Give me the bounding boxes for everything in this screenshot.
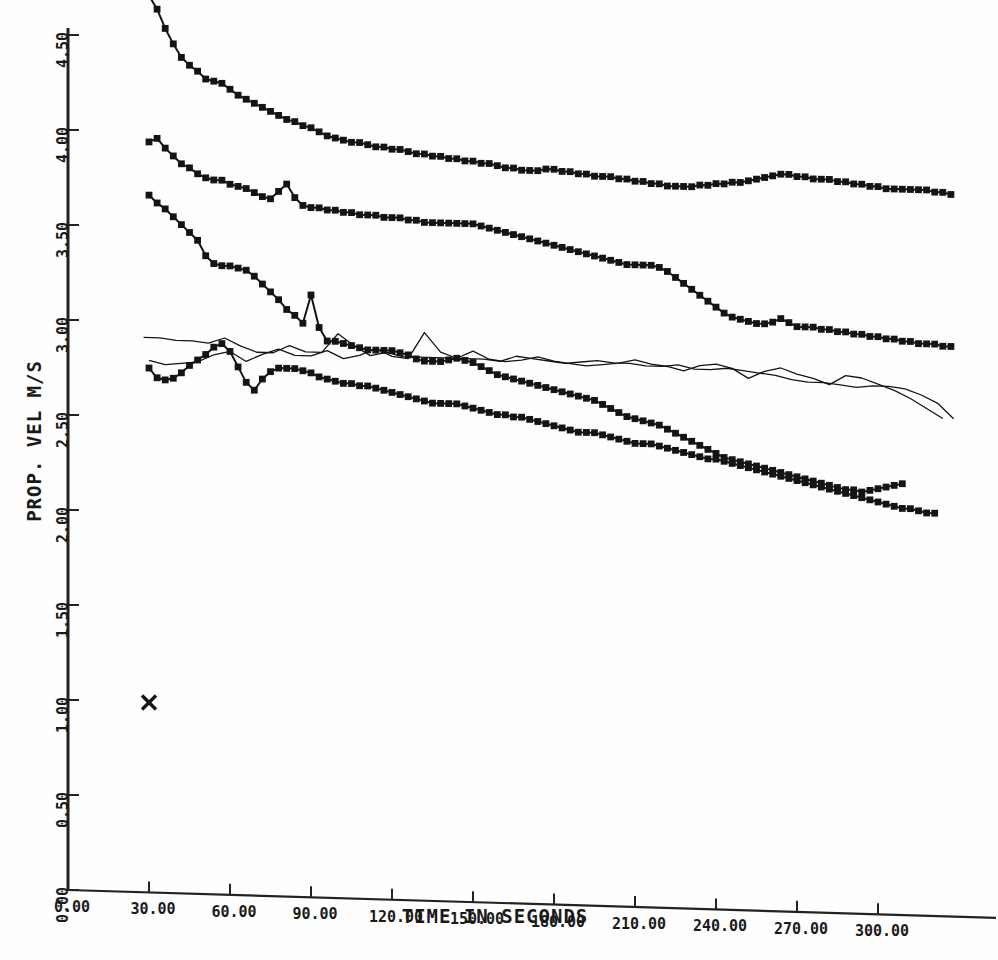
- marker-point: [591, 429, 598, 436]
- marker-point: [170, 213, 177, 220]
- marker-point: [883, 185, 890, 192]
- marker-point: [591, 173, 598, 180]
- marker-point: [777, 171, 784, 178]
- marker-point: [470, 405, 477, 412]
- marker-point: [308, 292, 315, 299]
- marker-point: [502, 164, 509, 171]
- marker-point: [713, 456, 720, 463]
- marker-point: [275, 365, 282, 372]
- marker-point: [251, 387, 258, 394]
- marker-point: [389, 214, 396, 221]
- marker-point: [615, 259, 622, 266]
- marker-point: [381, 144, 388, 151]
- marker-point: [324, 132, 331, 139]
- y-tick-label-3: 1.50: [54, 602, 72, 638]
- marker-point: [858, 494, 865, 501]
- marker-point: [794, 477, 801, 484]
- marker-point: [453, 400, 460, 407]
- marker-point: [202, 76, 209, 83]
- marker-point: [777, 473, 784, 480]
- marker-point: [802, 324, 809, 331]
- marker-point: [858, 181, 865, 188]
- marker-point: [291, 118, 298, 125]
- marker-point: [624, 413, 631, 420]
- marker-point: [607, 173, 614, 180]
- marker-point: [478, 407, 485, 414]
- marker-point: [478, 160, 485, 167]
- marker-point: [348, 139, 355, 146]
- marker-point: [915, 186, 922, 193]
- marker-point: [931, 341, 938, 348]
- marker-point: [210, 260, 217, 267]
- marker-point: [219, 80, 226, 87]
- marker-point: [551, 386, 558, 393]
- marker-point: [875, 485, 882, 492]
- marker-point: [486, 160, 493, 167]
- marker-point: [518, 167, 525, 174]
- marker-point: [518, 378, 525, 385]
- marker-point: [494, 371, 501, 378]
- marker-point: [486, 409, 493, 416]
- marker-point: [219, 340, 226, 347]
- marker-point: [923, 510, 930, 517]
- marker-point: [421, 358, 428, 365]
- marker-point: [372, 385, 379, 392]
- marker-point: [251, 100, 258, 107]
- marker-point: [688, 438, 695, 445]
- marker-point: [753, 320, 760, 327]
- marker-point: [680, 449, 687, 456]
- marker-point: [729, 179, 736, 186]
- marker-point: [494, 162, 501, 169]
- marker-point: [632, 261, 639, 268]
- marker-point: [850, 331, 857, 338]
- marker-point: [462, 220, 469, 227]
- marker-point: [162, 377, 169, 384]
- marker-point: [615, 175, 622, 182]
- marker-point: [186, 229, 193, 236]
- y-tick-label-4: 2.00: [54, 507, 72, 543]
- marker-point: [551, 242, 558, 249]
- marker-point: [729, 314, 736, 321]
- marker-point: [688, 451, 695, 458]
- marker-point: [696, 182, 703, 189]
- marker-point: [761, 174, 768, 181]
- marker-point: [162, 206, 169, 213]
- marker-point: [146, 192, 153, 199]
- series-line: [149, 0, 951, 194]
- marker-point: [470, 220, 477, 227]
- marker-point: [826, 326, 833, 333]
- marker-point: [259, 193, 266, 200]
- marker-point: [883, 501, 890, 508]
- marker-point: [170, 375, 177, 382]
- marker-point: [275, 188, 282, 195]
- marker-point: [891, 336, 898, 343]
- annotations: [142, 695, 156, 709]
- marker-point: [235, 92, 242, 99]
- marker-point: [875, 499, 882, 506]
- marker-point: [786, 475, 793, 482]
- marker-point: [259, 376, 266, 383]
- marker-point: [915, 507, 922, 514]
- marker-point: [777, 315, 784, 322]
- x-tick-label-7: 210.00: [604, 915, 674, 933]
- marker-point: [210, 78, 217, 85]
- marker-point: [931, 189, 938, 196]
- x-tick-label-10: 300.00: [847, 922, 917, 940]
- marker-point: [543, 166, 550, 173]
- marker-point: [340, 340, 347, 347]
- marker-point: [340, 209, 347, 216]
- marker-point: [518, 233, 525, 240]
- marker-point: [316, 128, 323, 135]
- marker-point: [583, 250, 590, 257]
- y-tick-label-6: 3.00: [54, 317, 72, 353]
- marker-point: [372, 143, 379, 150]
- marker-point: [324, 207, 331, 214]
- series-2: [146, 135, 955, 350]
- series-line: [149, 344, 935, 514]
- series-line: [149, 195, 902, 492]
- marker-point: [664, 426, 671, 433]
- marker-point: [162, 145, 169, 152]
- marker-point: [599, 431, 606, 438]
- marker-point: [818, 484, 825, 491]
- marker-point: [348, 380, 355, 387]
